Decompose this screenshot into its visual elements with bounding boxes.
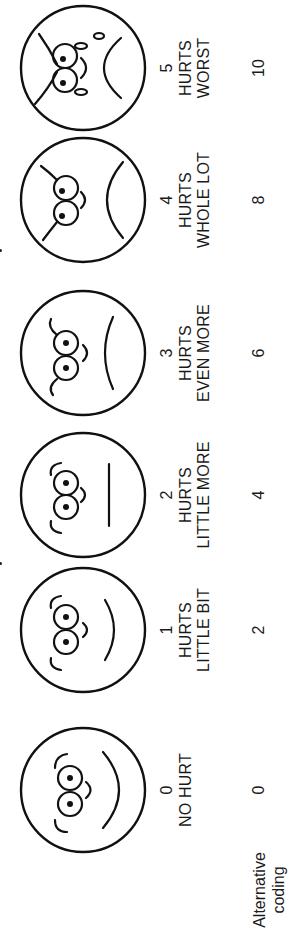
- face-description: NO HURT: [177, 720, 195, 860]
- tear-icon: [75, 89, 87, 95]
- face-description-line1: HURTS: [177, 560, 195, 700]
- nose-icon: [81, 192, 85, 208]
- eyebrow-icon: [43, 222, 57, 240]
- face-score: 2: [158, 425, 176, 565]
- eyebrow-icon: [51, 658, 61, 670]
- eyes-icon: [54, 331, 78, 380]
- face-description-line1: HURTS: [177, 0, 195, 138]
- eyebrow-icon: [55, 820, 67, 832]
- face-score: 0: [158, 720, 176, 860]
- nose-icon: [81, 488, 85, 502]
- alt-code: 6: [250, 283, 268, 423]
- face-description-line2: EVEN MORE: [195, 283, 213, 423]
- face-description-line1: HURTS: [177, 130, 195, 270]
- frown-mouth-icon: [104, 38, 121, 98]
- face-3-hurts-even-more: [21, 291, 145, 415]
- face-description-line1: HURTS: [177, 283, 195, 423]
- eyebrow-icon: [50, 319, 57, 335]
- face-description-line2: WORST: [195, 0, 213, 138]
- face-4-hurts-whole-lot: [21, 138, 145, 262]
- face-description-line2: LITTLE BIT: [195, 560, 213, 700]
- face-5-hurts-worst: [21, 6, 145, 130]
- alt-code: 8: [250, 130, 268, 270]
- face-outline: [21, 728, 145, 852]
- alt-code: 10: [250, 0, 268, 138]
- face-description-line2: WHOLE LOT: [195, 130, 213, 270]
- eyes-icon: [54, 176, 78, 225]
- tear-icon: [75, 43, 87, 49]
- nose-icon: [81, 58, 86, 78]
- face-score: 5: [158, 0, 176, 138]
- smile-mouth-icon: [103, 752, 119, 828]
- face-2-hurts-little-more: [21, 433, 145, 557]
- eyes-icon: [53, 44, 77, 92]
- eyes-icon: [54, 605, 78, 654]
- alt-code: 0: [250, 720, 268, 860]
- pain-scale-rotated: Alternativecoding 0 NO HURT 0 1 HURTS LI…: [0, 0, 296, 945]
- face-outline: [21, 6, 145, 130]
- eyebrow-icon: [41, 166, 57, 180]
- face-outline: [21, 568, 145, 692]
- eyebrow-icon: [51, 379, 57, 395]
- face-score: 1: [158, 560, 176, 700]
- face-1-hurts-little-bit: [21, 568, 145, 692]
- smile-mouth-icon: [105, 600, 114, 660]
- nose-icon: [83, 623, 87, 637]
- face-description-line2: LITTLE MORE: [195, 425, 213, 565]
- alt-code: 4: [250, 425, 268, 565]
- face-score: 3: [158, 283, 176, 423]
- face-outline: [21, 291, 145, 415]
- alt-code: 2: [250, 560, 268, 700]
- face-outline: [21, 138, 145, 262]
- face-0-no-hurt: [21, 728, 145, 852]
- nose-icon: [86, 782, 91, 798]
- frown-mouth-icon: [107, 162, 123, 238]
- nose-icon: [83, 345, 87, 361]
- eyebrow-icon: [35, 72, 57, 104]
- face-outline: [21, 433, 145, 557]
- frown-mouth-icon: [105, 317, 113, 389]
- face-description-line1: HURTS: [177, 425, 195, 565]
- eyes-icon: [58, 766, 82, 816]
- eyebrow-icon: [51, 521, 61, 533]
- face-score: 4: [158, 130, 176, 270]
- tear-icon: [94, 33, 104, 39]
- alternative-coding-label-line2: coding: [269, 835, 288, 945]
- eyes-icon: [54, 471, 78, 519]
